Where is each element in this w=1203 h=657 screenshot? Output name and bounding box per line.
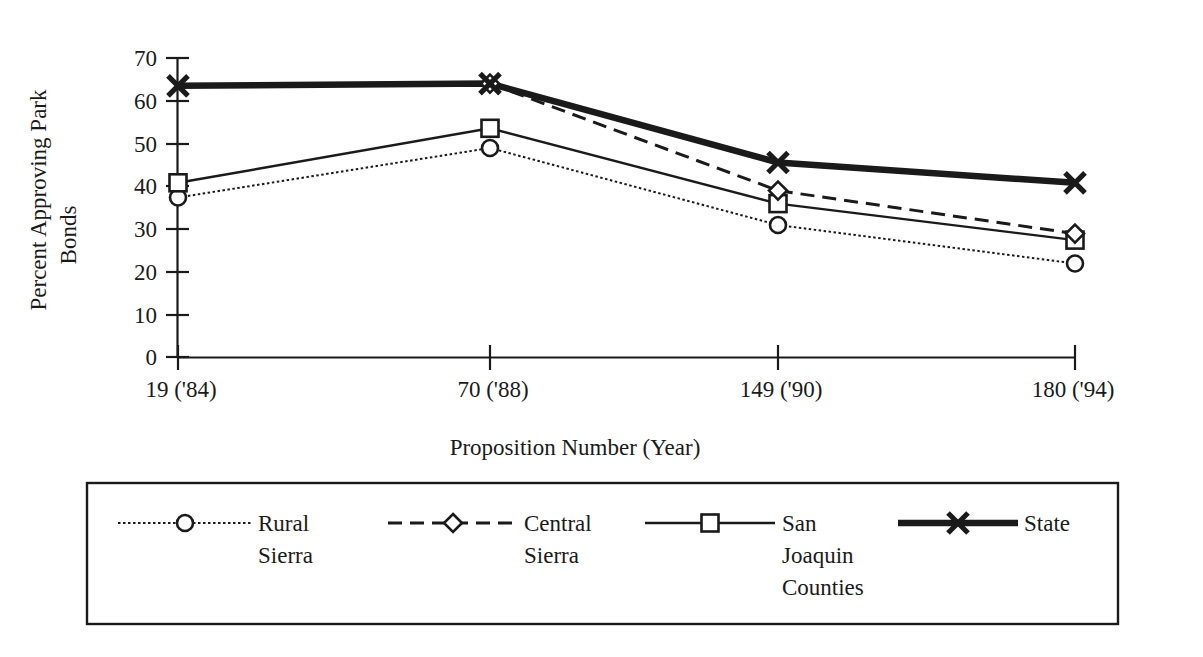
legend-label-central-line1: Central [524, 511, 592, 536]
y-tick-label-10: 10 [134, 303, 157, 328]
chart-legend: Rural Sierra Central Sierra San Joaquin … [87, 483, 1118, 624]
legend-label-state: State [1024, 511, 1070, 536]
y-axis-title-line2: Bonds [56, 206, 81, 265]
y-tick-label-50: 50 [134, 132, 157, 157]
y-tick-label-30: 30 [134, 217, 157, 242]
y-tick-label-20: 20 [134, 260, 157, 285]
legend-label-rural-line2: Sierra [258, 543, 313, 568]
y-tick-label-0: 0 [146, 345, 158, 370]
legend-swatch-circle-icon [177, 515, 193, 531]
x-axis-title: Proposition Number (Year) [450, 435, 701, 460]
legend-label-sanjoaquin-line1: San [782, 511, 817, 536]
y-tick-label-60: 60 [134, 89, 157, 114]
x-axis-ticks: 19 ('84) 70 ('88) 149 ('90) 180 ('94) [145, 345, 1114, 402]
legend-label-sanjoaquin-line3: Counties [782, 575, 864, 600]
y-tick-label-70: 70 [134, 46, 157, 71]
data-point-rural-149 [770, 217, 786, 233]
data-point-rural-180 [1067, 256, 1083, 272]
series-line-rural-sierra [178, 148, 1075, 264]
x-tick-label-0: 19 ('84) [145, 377, 216, 402]
x-tick-label-2: 149 ('90) [740, 377, 823, 402]
y-axis-title: Percent Approving Park Bonds [26, 89, 81, 311]
legend-swatch-square-icon [702, 515, 719, 532]
legend-label-rural-line1: Rural [258, 511, 309, 536]
y-tick-label-40: 40 [134, 174, 157, 199]
legend-label-sanjoaquin-line2: Joaquin [782, 543, 854, 568]
data-point-rural-70 [482, 140, 498, 156]
data-point-sanjoaquin-70 [482, 120, 499, 137]
legend-swatch-diamond-icon [444, 514, 462, 532]
y-axis-title-line1: Percent Approving Park [26, 89, 51, 311]
x-tick-label-1: 70 ('88) [457, 377, 528, 402]
park-bonds-line-chart: Percent Approving Park Bonds 70 60 50 40… [0, 0, 1203, 657]
chart-figure: Percent Approving Park Bonds 70 60 50 40… [0, 0, 1203, 657]
legend-label-central-line2: Sierra [524, 543, 579, 568]
legend-item-central-sierra[interactable]: Central Sierra [388, 511, 592, 568]
x-tick-label-3: 180 ('94) [1032, 377, 1115, 402]
axes [178, 58, 1076, 358]
legend-item-san-joaquin-counties[interactable]: San Joaquin Counties [645, 511, 864, 600]
y-axis-ticks: 70 60 50 40 30 20 10 0 [134, 46, 189, 370]
legend-item-rural-sierra[interactable]: Rural Sierra [118, 511, 313, 568]
legend-item-state[interactable]: State [898, 511, 1070, 536]
data-point-sanjoaquin-19 [170, 174, 187, 191]
legend-border [87, 483, 1118, 624]
